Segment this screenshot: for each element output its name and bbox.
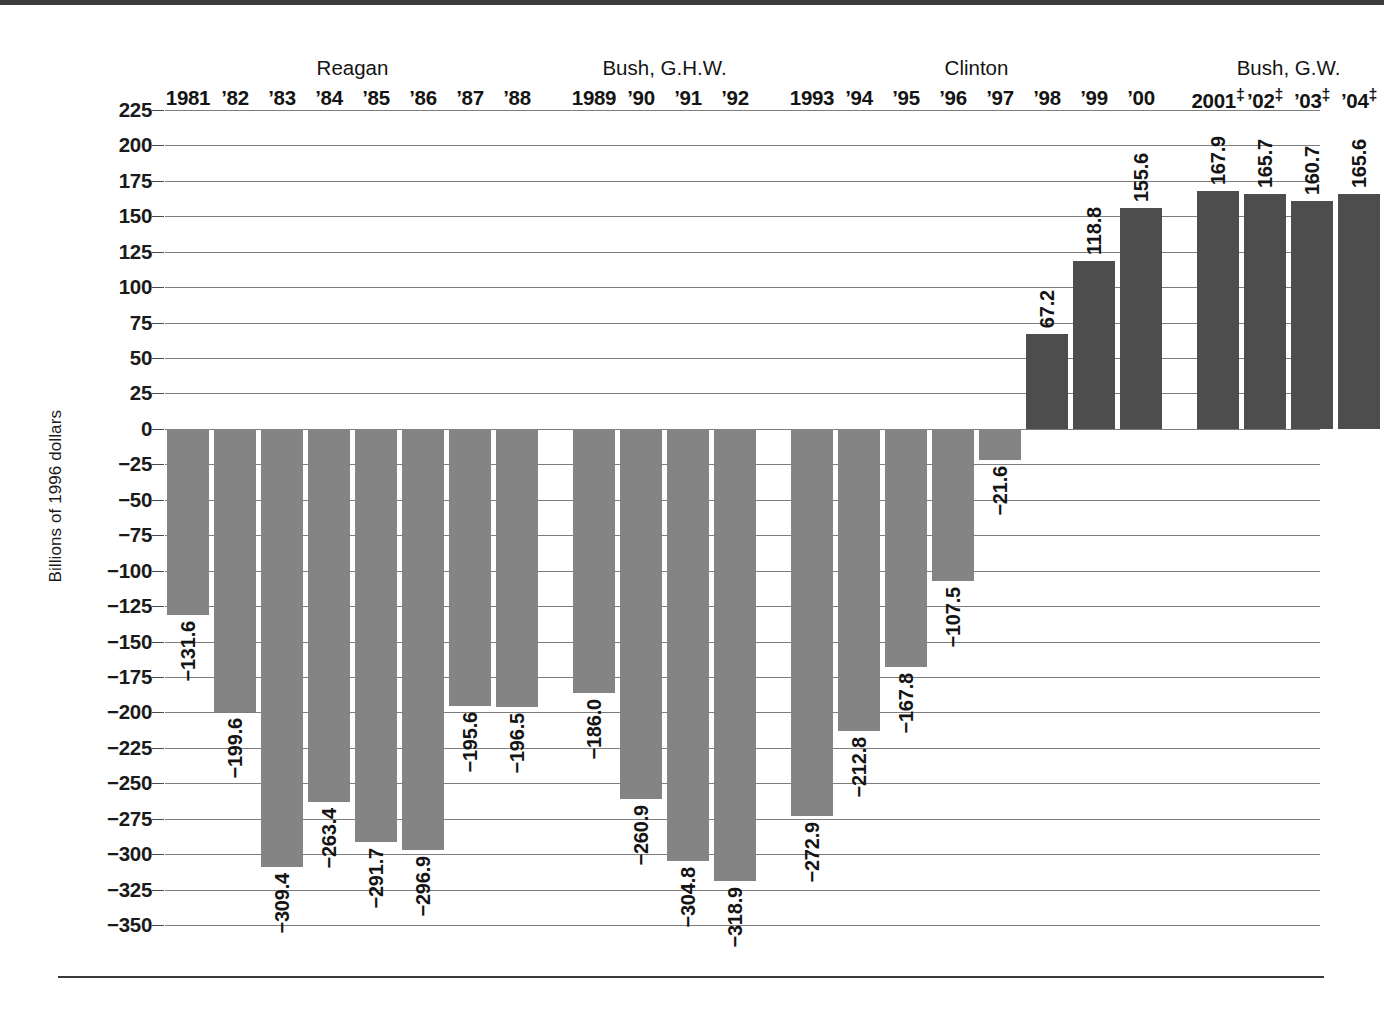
y-tick-mark [152, 571, 164, 572]
y-tick-mark [152, 819, 164, 820]
y-tick-mark [152, 110, 164, 111]
y-tick-label: −25 [118, 452, 152, 476]
bar [167, 429, 209, 616]
bar-value-label: −304.8 [677, 867, 700, 928]
bar-value-label: −260.9 [630, 805, 653, 866]
bar-value-label: 155.6 [1130, 153, 1153, 202]
bar [1073, 261, 1115, 429]
y-tick-mark [152, 535, 164, 536]
year-label: ’00 [1106, 86, 1176, 110]
year-label: 2001‡ [1183, 86, 1253, 113]
y-tick-label: 200 [119, 133, 152, 157]
y-tick-label: 25 [130, 381, 152, 405]
y-tick-mark [152, 252, 164, 253]
year-label: ’99 [1059, 86, 1129, 110]
y-tick-label: −150 [107, 630, 152, 654]
bar-value-label: −195.6 [459, 712, 482, 773]
president-label: Clinton [791, 56, 1162, 80]
gridline [165, 145, 1320, 146]
year-label: ’96 [918, 86, 988, 110]
year-label: ’04‡ [1324, 86, 1384, 113]
y-tick-mark [152, 429, 164, 430]
bar-value-label: −131.6 [177, 621, 200, 682]
y-tick-label: 175 [119, 169, 152, 193]
bar [214, 429, 256, 712]
y-tick-mark [152, 181, 164, 182]
y-tick-mark [152, 287, 164, 288]
y-tick-label: 75 [130, 311, 152, 335]
y-tick-mark [152, 890, 164, 891]
bar [1197, 191, 1239, 429]
y-tick-mark [152, 748, 164, 749]
bar [714, 429, 756, 881]
year-label: ’90 [606, 86, 676, 110]
bar [667, 429, 709, 861]
plot-area: −131.6−199.6−309.4−263.4−291.7−296.9−195… [165, 110, 1320, 925]
y-tick-mark [152, 358, 164, 359]
projection-dagger-icon: ‡ [1236, 86, 1245, 103]
y-axis-title: Billions of 1996 dollars [46, 410, 66, 583]
y-tick-label: −200 [107, 700, 152, 724]
president-label: Bush, G.W. [1197, 56, 1380, 80]
bar-value-label: 165.6 [1348, 139, 1371, 188]
bar [620, 429, 662, 799]
top-rule [0, 0, 1384, 5]
president-label: Bush, G.H.W. [573, 56, 756, 80]
year-label: ’94 [824, 86, 894, 110]
year-label: ’97 [965, 86, 1035, 110]
year-label: ’95 [871, 86, 941, 110]
y-tick-label: −250 [107, 771, 152, 795]
bar [261, 429, 303, 868]
y-tick-label: 225 [119, 98, 152, 122]
y-tick-label: −100 [107, 559, 152, 583]
bar-value-label: −309.4 [271, 873, 294, 934]
bar-value-label: −186.0 [583, 699, 606, 760]
bar-value-label: −318.9 [724, 887, 747, 948]
y-tick-mark [152, 216, 164, 217]
gridline [165, 110, 1320, 111]
y-tick-label: 100 [119, 275, 152, 299]
y-tick-mark [152, 854, 164, 855]
y-tick-label: 0 [141, 417, 152, 441]
year-label: 1989 [559, 86, 629, 110]
y-tick-mark [152, 393, 164, 394]
bar [979, 429, 1021, 460]
bar [932, 429, 974, 581]
bar-value-label: −291.7 [365, 848, 388, 909]
bar [1026, 334, 1068, 429]
y-tick-label: −300 [107, 842, 152, 866]
y-tick-mark [152, 323, 164, 324]
year-label: ’86 [388, 86, 458, 110]
bar [885, 429, 927, 667]
bar [402, 429, 444, 850]
y-tick-label: 125 [119, 240, 152, 264]
y-tick-mark [152, 500, 164, 501]
bar [355, 429, 397, 842]
bar [573, 429, 615, 693]
bar [838, 429, 880, 731]
y-tick-mark [152, 677, 164, 678]
y-tick-label: −175 [107, 665, 152, 689]
y-tick-mark [152, 925, 164, 926]
year-label: 1981 [153, 86, 223, 110]
chart-page: Billions of 1996 dollars 225200175150125… [0, 0, 1384, 1012]
year-label: ’88 [482, 86, 552, 110]
bar [1291, 201, 1333, 429]
bar-value-label: −107.5 [942, 587, 965, 648]
year-label: ’92 [700, 86, 770, 110]
bar-value-label: 118.8 [1083, 207, 1106, 255]
y-tick-mark [152, 642, 164, 643]
bar-value-label: −199.6 [224, 718, 247, 779]
bar-value-label: −296.9 [412, 856, 435, 917]
bar-value-label: 167.9 [1207, 136, 1230, 185]
bar-value-label: −272.9 [801, 822, 824, 883]
year-label: ’03‡ [1277, 86, 1347, 113]
y-tick-label: −75 [118, 523, 152, 547]
bar [1338, 194, 1380, 429]
bar [308, 429, 350, 802]
year-label: ’82 [200, 86, 270, 110]
bar-value-label: −21.6 [989, 466, 1012, 516]
y-tick-label: 50 [130, 346, 152, 370]
bar-value-label: −167.8 [895, 673, 918, 734]
bar-value-label: 67.2 [1036, 290, 1059, 328]
